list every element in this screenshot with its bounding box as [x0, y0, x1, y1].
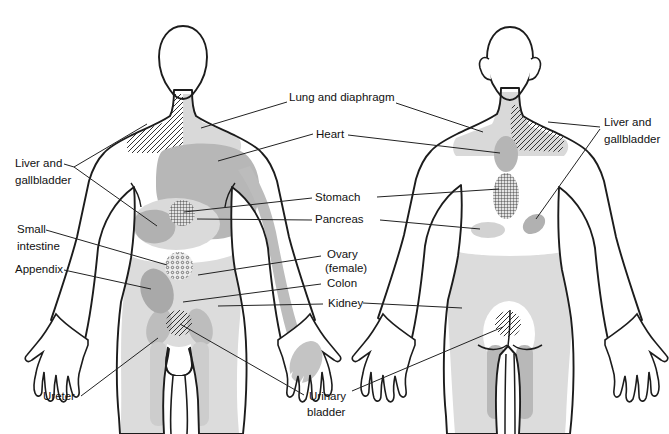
- label-bladder-2: bladder: [307, 406, 346, 418]
- label-appendix: Appendix: [15, 263, 63, 275]
- region-bladder-back: [495, 311, 521, 337]
- label-heart: Heart: [316, 128, 345, 140]
- region-thigh-right: [192, 342, 209, 426]
- label-ovary-2: (female): [325, 262, 367, 274]
- label-pancreas: Pancreas: [315, 213, 364, 225]
- region-stomach-back: [493, 173, 519, 219]
- label-kidney: Kidney: [328, 297, 363, 309]
- region-stomach-front: [169, 200, 195, 226]
- label-colon: Colon: [327, 277, 357, 289]
- label-small-intestine-1: Small: [17, 223, 46, 235]
- diagram-canvas: Liver and gallbladder Small intestine Ap…: [0, 0, 669, 434]
- region-pancreas-back: [471, 222, 505, 238]
- label-stomach: Stomach: [315, 191, 360, 203]
- region-liver-hatch-back: [511, 103, 565, 152]
- label-liver-front-1: Liver and: [15, 157, 62, 169]
- referred-pain-diagram: Liver and gallbladder Small intestine Ap…: [0, 0, 669, 434]
- label-lung: Lung and diaphragm: [289, 91, 395, 103]
- region-heart-back: [494, 136, 518, 172]
- label-bladder-1: Urinary: [309, 390, 346, 402]
- label-liver-back-1: Liver and: [604, 116, 651, 128]
- region-bladder-front: [166, 310, 192, 336]
- label-liver-front-2: gallbladder: [15, 174, 71, 186]
- region-small-intestine: [165, 252, 193, 280]
- label-ovary-1: Ovary: [327, 248, 358, 260]
- region-ureter-thigh-right: [516, 345, 533, 419]
- figure-front: [25, 26, 340, 434]
- figure-back: [352, 27, 667, 434]
- scrotum-fill: [171, 376, 188, 434]
- label-ureter: Ureter: [43, 390, 75, 402]
- label-small-intestine-2: intestine: [17, 240, 60, 252]
- label-liver-back-2: gallbladder: [604, 133, 660, 145]
